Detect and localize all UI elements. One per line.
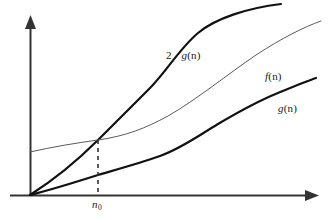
x-axis-threshold-label-var: n (92, 198, 98, 210)
curve-label-2-g-of-n-arg: (n) (187, 49, 200, 61)
curve-label-g-of-n: g(n) (278, 103, 297, 114)
curve-f-of-n (30, 21, 321, 152)
curve-label-f-of-n-arg: (n) (268, 70, 281, 82)
x-axis (10, 190, 319, 201)
x-axis-arrowhead-icon (305, 190, 319, 201)
x-axis-threshold-label-subscript: 0 (98, 203, 102, 212)
y-axis (25, 15, 36, 196)
curve-label-f-of-n: f(n) (265, 71, 282, 82)
curve-label-2-g-of-n-prefix: 2 · (166, 49, 181, 61)
curve-g-of-n (30, 78, 316, 195)
asymptotic-bound-figure: 2 · g(n) f(n) g(n) n0 (0, 0, 328, 223)
curve-label-2-g-of-n: 2 · g(n) (166, 50, 201, 61)
x-axis-threshold-label: n0 (92, 199, 102, 210)
curve-2-g-of-n (30, 4, 281, 195)
y-axis-arrowhead-icon (25, 15, 36, 29)
curve-label-g-of-n-arg: (n) (284, 102, 297, 114)
